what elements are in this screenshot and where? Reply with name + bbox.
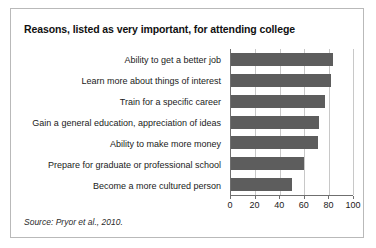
category-axis-labels: Ability to get a better jobLearn more ab… — [11, 49, 227, 196]
bar — [231, 116, 319, 129]
bar-series — [231, 49, 353, 195]
bar-slot — [231, 132, 353, 153]
value-axis: 020406080100 — [230, 196, 353, 202]
gridline — [353, 49, 354, 195]
bar — [231, 157, 304, 170]
plot-area — [230, 49, 353, 196]
category-label: Ability to get a better job — [11, 49, 227, 70]
axis-tick — [230, 196, 231, 199]
axis-tick-label: 80 — [323, 200, 333, 210]
category-label: Gain a general education, appreciation o… — [11, 112, 227, 133]
bar-slot — [231, 49, 353, 70]
axis-tick-label: 0 — [227, 200, 232, 210]
bar — [231, 136, 318, 149]
source-note: Source: Pryor et al., 2010. — [24, 217, 123, 227]
bar-slot — [231, 91, 353, 112]
category-label: Become a more cultured person — [11, 175, 227, 196]
axis-tick — [328, 196, 329, 199]
bar-slot — [231, 70, 353, 91]
category-label: Ability to make more money — [11, 133, 227, 154]
bar-slot — [231, 112, 353, 133]
axis-tick — [279, 196, 280, 199]
category-label: Learn more about things of interest — [11, 70, 227, 91]
bar — [231, 53, 333, 66]
axis-tick-label: 100 — [345, 200, 360, 210]
bar-slot — [231, 174, 353, 195]
chart-plot: Ability to get a better jobLearn more ab… — [11, 49, 363, 204]
axis-tick — [304, 196, 305, 199]
axis-tick-label: 20 — [250, 200, 260, 210]
axis-tick-label: 60 — [299, 200, 309, 210]
bar — [231, 74, 331, 87]
bar — [231, 178, 292, 191]
bar-slot — [231, 153, 353, 174]
category-label: Prepare for graduate or professional sch… — [11, 154, 227, 175]
category-label: Train for a specific career — [11, 91, 227, 112]
figure-panel: Reasons, listed as very important, for a… — [10, 8, 364, 238]
bar — [231, 95, 325, 108]
axis-tick-label: 40 — [274, 200, 284, 210]
axis-tick — [353, 196, 354, 199]
axis-tick — [255, 196, 256, 199]
page-title: Reasons, listed as very important, for a… — [24, 23, 295, 35]
